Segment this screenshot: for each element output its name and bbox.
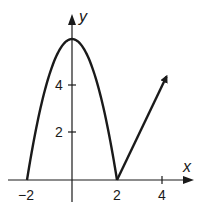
y-tick-label-4: 4 xyxy=(55,77,63,93)
x-axis-label: x xyxy=(182,158,192,175)
x-tick-label-4: 4 xyxy=(158,187,166,203)
function-graph: x y −2 2 4 4 2 xyxy=(0,0,205,211)
y-axis-arrow-icon xyxy=(68,14,76,25)
x-tick-label-neg2: −2 xyxy=(18,187,34,203)
y-tick-label-2: 2 xyxy=(55,124,63,140)
x-tick-label-2: 2 xyxy=(113,187,121,203)
x-axis-arrow-icon xyxy=(183,176,194,184)
ray-line xyxy=(117,77,167,180)
y-axis-label: y xyxy=(78,8,88,25)
